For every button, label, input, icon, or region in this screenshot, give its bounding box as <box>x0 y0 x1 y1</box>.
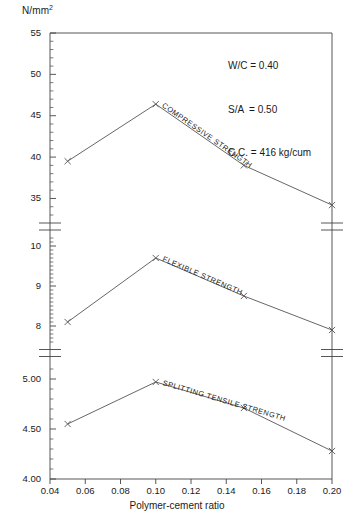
y-tick-label-flexible-9: 9 <box>0 280 41 291</box>
y-tick-label-compressive-55: 55 <box>0 27 41 38</box>
series-line-compressive <box>68 104 332 205</box>
data-point-splitting-tensile-0.05 <box>65 421 71 427</box>
data-point-flexible-0.05 <box>65 319 71 325</box>
y-tick-label-compressive-45: 45 <box>0 109 41 120</box>
data-point-compressive-0.05 <box>65 158 71 164</box>
y-tick-label-flexible-8: 8 <box>0 320 41 331</box>
strength-vs-polymer-cement-ratio-chart: N/mm2 W/C = 0.40 S/A = 0.50 C.C. = 416 k… <box>0 0 354 524</box>
x-axis-title: Polymer-cement ratio <box>0 500 354 511</box>
data-point-splitting-tensile-0.1 <box>153 379 159 385</box>
y-tick-label-compressive-35: 35 <box>0 192 41 203</box>
x-tick-label-0.20: 0.20 <box>310 485 354 496</box>
y-tick-label-splitting-tensile-4.50: 4.50 <box>0 423 41 434</box>
y-tick-label-flexible-10: 10 <box>0 240 41 251</box>
data-point-compressive-0.1 <box>153 101 159 107</box>
y-tick-label-compressive-40: 40 <box>0 151 41 162</box>
data-point-flexible-0.1 <box>153 255 159 261</box>
y-tick-label-splitting-tensile-4.00: 4.00 <box>0 473 41 484</box>
y-tick-label-splitting-tensile-5.00: 5.00 <box>0 373 41 384</box>
y-tick-label-compressive-50: 50 <box>0 68 41 79</box>
